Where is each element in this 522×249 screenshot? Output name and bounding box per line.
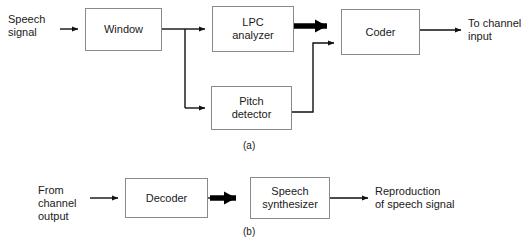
block-lpc-analyzer-label: LPC analyzer — [232, 16, 274, 42]
block-lpc-analyzer[interactable]: LPC analyzer — [212, 6, 294, 52]
block-window[interactable]: Window — [85, 8, 162, 51]
figure-caption-a: (a) — [243, 140, 255, 152]
block-window-label: Window — [104, 23, 143, 36]
block-diagram-figure: Speech signal Window LPC analyzer Pitch … — [0, 0, 522, 249]
block-pitch-detector[interactable]: Pitch detector — [211, 86, 292, 130]
block-speech-synthesizer-label: Speech synthesizer — [262, 185, 318, 211]
block-coder[interactable]: Coder — [341, 9, 420, 55]
block-decoder-label: Decoder — [146, 192, 188, 205]
block-coder-label: Coder — [366, 26, 396, 39]
label-to-channel-input: To channel input — [468, 17, 521, 43]
wire-pitch-to-coder — [292, 43, 334, 112]
label-reproduction-of-speech-signal: Reproduction of speech signal — [375, 185, 455, 211]
block-speech-synthesizer[interactable]: Speech synthesizer — [250, 177, 330, 219]
block-decoder[interactable]: Decoder — [125, 178, 208, 218]
label-speech-signal: Speech signal — [8, 13, 45, 39]
label-from-channel-output: From channel output — [38, 184, 77, 223]
figure-caption-b: (b) — [243, 226, 255, 238]
block-pitch-detector-label: Pitch detector — [232, 95, 272, 121]
